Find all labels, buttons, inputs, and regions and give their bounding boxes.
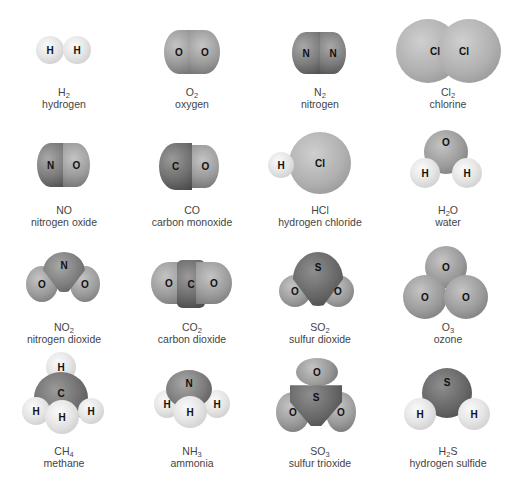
oxygen-atom: O <box>192 145 219 188</box>
oxygen-atom: O <box>63 143 90 187</box>
molecule-co: C O CO carbon monoxide <box>128 120 256 240</box>
molecule-no: N O NO nitrogen oxide <box>0 120 128 240</box>
molecule-o3: O O O O3 ozone <box>384 240 512 360</box>
molecule-name: ammonia <box>128 457 256 469</box>
h2-model: H H <box>0 0 128 100</box>
oxygen-atom: O <box>196 262 232 304</box>
hydrogen-atom: H <box>78 398 104 424</box>
molecule-so2: O O S SO2 sulfur dioxide <box>256 240 384 360</box>
molecule-n2: N N N2 nitrogen <box>256 0 384 120</box>
molecule-name: sulfur dioxide <box>256 333 384 345</box>
nitrogen-atom: N <box>320 32 346 74</box>
oxygen-atom: O <box>403 275 447 319</box>
molecule-so3: O O O S SO3 sulfur trioxide <box>256 360 384 484</box>
molecule-h2o: O H H H2O water <box>384 120 512 240</box>
nitrogen-atom: N <box>37 143 64 187</box>
hydrogen-atom: H <box>268 152 294 178</box>
molecule-name: carbon monoxide <box>128 216 256 228</box>
n2-model: N N <box>256 0 384 100</box>
oxygen-atom: O <box>190 30 220 74</box>
molecule-h2s: S H H H2S hydrogen sulfide <box>384 360 512 484</box>
molecule-ch4: H C H H H CH4 methane <box>0 360 128 484</box>
molecule-cl2: Cl Cl Cl2 chlorine <box>384 0 512 120</box>
hydrogen-atom: H <box>452 158 482 188</box>
chlorine-atom: Cl <box>289 132 351 194</box>
molecule-name: hydrogen chloride <box>256 216 384 228</box>
chlorine-atom: Cl <box>437 19 501 83</box>
molecule-co2: O C O CO2 carbon dioxide <box>128 240 256 360</box>
hydrogen-atom: H <box>458 398 490 430</box>
hydrogen-atom: H <box>173 396 207 428</box>
molecule-hcl: Cl H HCl hydrogen chloride <box>256 120 384 240</box>
carbon-atom: C <box>159 143 192 190</box>
molecule-name: nitrogen dioxide <box>0 333 128 345</box>
hydrogen-atom: H <box>45 400 79 434</box>
molecule-name: hydrogen sulfide <box>384 457 512 469</box>
molecule-nh3: H H N H NH3 ammonia <box>128 360 256 484</box>
molecule-name: nitrogen oxide <box>0 216 128 228</box>
molecule-name: carbon dioxide <box>128 333 256 345</box>
molecule-no2: O O N NO2 nitrogen dioxide <box>0 240 128 360</box>
molecule-name: oxygen <box>128 98 256 110</box>
hydrogen-atom: H <box>63 36 91 64</box>
oxygen-atom: O <box>444 275 488 319</box>
molecule-name: nitrogen <box>256 98 384 110</box>
molecule-name: hydrogen <box>0 98 128 110</box>
molecule-name: sulfur trioxide <box>256 457 384 469</box>
hydrogen-atom: H <box>36 36 64 64</box>
oxygen-atom: O <box>296 358 338 386</box>
molecule-name: water <box>384 216 512 228</box>
cl2-model: Cl Cl <box>384 0 512 100</box>
nitrogen-atom: N <box>292 32 320 74</box>
molecule-name: ozone <box>384 333 512 345</box>
molecule-name: chlorine <box>384 98 512 110</box>
o2-model: O O <box>128 0 256 100</box>
hydrogen-atom: H <box>410 158 440 188</box>
hydrogen-atom: H <box>404 398 436 430</box>
molecule-name: methane <box>0 457 128 469</box>
molecule-h2: H H H2 hydrogen <box>0 0 128 120</box>
molecule-o2: O O O2 oxygen <box>128 0 256 120</box>
